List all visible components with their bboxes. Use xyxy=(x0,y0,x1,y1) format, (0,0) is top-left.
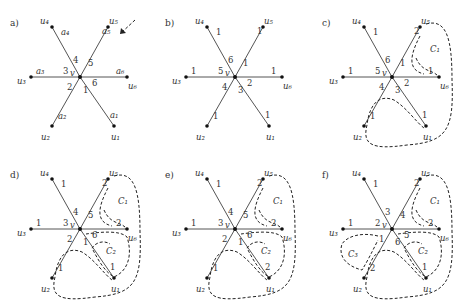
vertex-u3 xyxy=(341,75,345,79)
edge-center-label-u2: 4 xyxy=(379,82,384,92)
vertex-label-u2: u₂ xyxy=(353,284,362,294)
vertex-label-v: v xyxy=(70,220,75,230)
vertex-label-u5: u₅ xyxy=(109,168,118,178)
panel-label: d) xyxy=(10,170,19,180)
vertex-label-u4: u₄ xyxy=(40,16,49,26)
vertex-u6 xyxy=(280,75,284,79)
vertex-v xyxy=(233,227,237,231)
vertex-label-u6: u₆ xyxy=(440,81,449,91)
edge-end-label-u1: 1 xyxy=(422,262,427,272)
edge-end-label-u1: 1 xyxy=(110,262,115,272)
vertex-u2 xyxy=(50,124,54,128)
edge-center-label-u2: 2 xyxy=(67,234,72,244)
edge-end-label-u5: 2 xyxy=(414,26,419,36)
panel-label: c) xyxy=(322,18,331,28)
edge-end-label-u4: 1 xyxy=(216,179,221,189)
edge-center-label-u6: 6 xyxy=(92,230,97,240)
vertex-label-u1: u₁ xyxy=(266,132,275,142)
edge-center-label-u2: 2 xyxy=(222,234,227,244)
edge-u2 xyxy=(364,229,392,278)
panel-label: a) xyxy=(10,18,19,28)
vertex-label-u6: u₆ xyxy=(128,233,137,243)
vertex-label-u2: u₂ xyxy=(41,284,50,294)
edge-end-label-u6: a₆ xyxy=(116,66,125,76)
vertex-label-u5: u₅ xyxy=(421,16,430,26)
edge-center-label-u1: 3 xyxy=(238,85,243,95)
panel-f: f)u₁u₂u₃u₄u₅u₆v162112132425C₁C₂C₃ xyxy=(312,152,469,304)
edge-center-label-u3: 5 xyxy=(218,66,223,76)
vertex-u3 xyxy=(341,227,345,231)
vertex-label-u3: u₃ xyxy=(17,228,26,238)
edge-end-label-u3: 1 xyxy=(191,66,196,76)
vertex-v xyxy=(78,75,82,79)
cycle-label-C1: C₁ xyxy=(430,196,440,206)
vertex-u4 xyxy=(362,25,366,29)
vertex-u4 xyxy=(50,25,54,29)
vertex-v xyxy=(233,75,237,79)
vertex-u1 xyxy=(267,124,271,128)
edge-u2 xyxy=(207,77,235,126)
cycle-label-C2: C₂ xyxy=(261,246,272,256)
edge-center-label-u3: 3 xyxy=(63,66,68,76)
vertex-label-u3: u₃ xyxy=(172,76,181,86)
vertex-label-v: v xyxy=(382,220,387,230)
panel-c: c)u₁u₂u₃u₄u₅u₆v131415162112C₁ xyxy=(312,0,469,152)
edge-end-label-u2: 1 xyxy=(213,111,218,121)
vertex-label-u1: u₁ xyxy=(111,132,120,142)
edge-u2 xyxy=(207,229,235,278)
cycle-label-C2: C₂ xyxy=(106,246,117,256)
edge-end-label-u5: a₅ xyxy=(102,26,111,36)
edge-center-label-u1: 6 xyxy=(395,237,400,247)
edge-center-label-u3: 5 xyxy=(375,66,380,76)
edge-end-label-u1: a₁ xyxy=(110,110,118,120)
panel-label: f) xyxy=(322,170,329,180)
panel-d: d)u₁u₂u₃u₄u₅u₆v111213142526C₁C₂ xyxy=(0,152,157,304)
vertex-u3 xyxy=(29,227,33,231)
vertex-label-u3: u₃ xyxy=(172,228,181,238)
vertex-u3 xyxy=(29,75,33,79)
vertex-label-u4: u₄ xyxy=(352,168,361,178)
cycle-label-C3: C₃ xyxy=(348,249,359,259)
panel-e: e)u₁u₂u₃u₄u₅u₆v211213142526C₁C₂ xyxy=(155,152,312,304)
vertex-label-u5: u₅ xyxy=(421,168,430,178)
vertex-label-u6: u₆ xyxy=(128,81,137,91)
vertex-label-u5: u₅ xyxy=(264,168,273,178)
edge-end-label-u4: 1 xyxy=(61,179,66,189)
vertex-label-u3: u₃ xyxy=(17,76,26,86)
edge-center-label-u1: 1 xyxy=(238,237,243,247)
edge-center-label-u3: 2 xyxy=(375,218,380,228)
edge-end-label-u2: 1 xyxy=(213,263,218,273)
cycle-label-C1: C₁ xyxy=(118,196,128,206)
edge-center-label-u4: 4 xyxy=(73,55,78,65)
vertex-u2 xyxy=(50,276,54,280)
edge-end-label-u6: 1 xyxy=(271,66,276,76)
cycle-label-C2: C₂ xyxy=(418,246,429,256)
vertex-label-v: v xyxy=(70,68,75,78)
vertex-label-u3: u₃ xyxy=(329,228,338,238)
edge-center-label-u6: 6 xyxy=(247,230,252,240)
edge-center-label-u6: 6 xyxy=(92,78,97,88)
edge-end-label-u2: 1 xyxy=(370,111,375,121)
vertex-u4 xyxy=(362,177,366,181)
edge-end-label-u3: 1 xyxy=(348,218,353,228)
edge-center-label-u2: 1 xyxy=(379,234,384,244)
vertex-label-u3: u₃ xyxy=(329,76,338,86)
edge-end-label-u5: 2 xyxy=(414,178,419,188)
edge-end-label-u2: a₂ xyxy=(58,111,67,121)
vertex-u3 xyxy=(184,75,188,79)
edge-center-label-u6: 2 xyxy=(404,78,409,88)
edge-end-label-u1: 2 xyxy=(265,262,270,272)
edge-center-label-u4: 6 xyxy=(385,55,390,65)
cycle-label-C1: C₁ xyxy=(430,44,440,54)
panel-label: e) xyxy=(165,170,174,180)
vertex-label-u4: u₄ xyxy=(352,16,361,26)
edge-end-label-u3: 1 xyxy=(348,66,353,76)
edge-end-label-u3: 1 xyxy=(36,218,41,228)
edge-end-label-u1: 1 xyxy=(265,110,270,120)
vertex-v xyxy=(390,227,394,231)
vertex-u2 xyxy=(362,276,366,280)
edge-end-label-u2: 2 xyxy=(370,263,375,273)
edge-end-label-u4: 1 xyxy=(373,27,378,37)
edge-end-label-u4: a₄ xyxy=(61,27,70,37)
edge-center-label-u1: 1 xyxy=(83,237,88,247)
